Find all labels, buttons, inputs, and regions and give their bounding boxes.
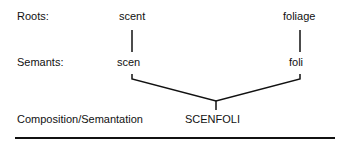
- link-merge: [132, 74, 300, 101]
- root-scent: scent: [119, 10, 145, 23]
- root-foliage: foliage: [283, 10, 315, 23]
- semant-scen: scen: [117, 56, 140, 69]
- result-word: SCENFOLI: [185, 113, 240, 126]
- semant-foli: foli: [289, 56, 303, 69]
- composition-label: Composition/Semantation: [17, 113, 143, 126]
- roots-label: Roots:: [17, 10, 49, 23]
- semants-label: Semants:: [17, 56, 63, 69]
